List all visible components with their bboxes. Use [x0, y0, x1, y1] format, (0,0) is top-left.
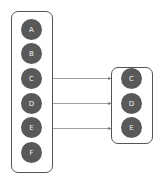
node-f: F: [21, 142, 42, 163]
target-node-c: C: [121, 68, 142, 89]
target-node-e: E: [121, 117, 142, 138]
node-d: D: [21, 93, 42, 114]
node-c: C: [21, 68, 42, 89]
target-node-d: D: [121, 93, 142, 114]
node-b: B: [21, 43, 42, 64]
node-a: A: [21, 19, 42, 40]
node-e: E: [21, 117, 42, 138]
